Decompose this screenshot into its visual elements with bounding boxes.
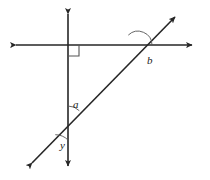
angle-label-b: b (147, 55, 153, 66)
angle-arc-b-icon (128, 31, 152, 45)
angle-label-y: y (60, 140, 65, 151)
angle-label-a: a (73, 99, 79, 110)
geometry-canvas (0, 0, 210, 180)
geometry-diagram: a b y (0, 0, 210, 180)
diagonal-line (32, 17, 175, 163)
right-angle-mark-icon (68, 45, 79, 56)
